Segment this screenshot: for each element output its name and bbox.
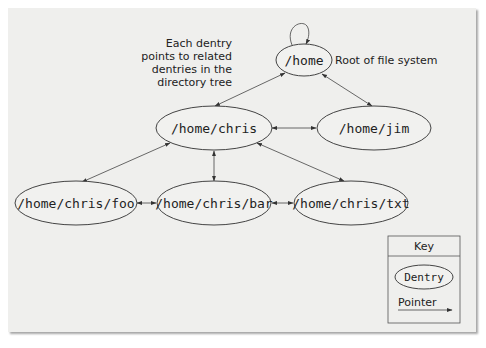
node-foo: /home/chris/foo xyxy=(15,181,137,225)
node-txt-label: /home/chris/txt xyxy=(292,196,409,211)
node-home-label: /home xyxy=(284,53,323,68)
key-legend: Key Dentry Pointer xyxy=(388,236,460,323)
node-bar-label: /home/chris/bar xyxy=(155,196,273,211)
edge-chris-foo xyxy=(82,143,170,182)
dentry-diagram: /home /home/chris /home/jim /home/chris/… xyxy=(0,0,486,348)
edge-home-jim xyxy=(322,74,372,106)
node-txt: /home/chris/txt xyxy=(292,181,409,225)
annotation-line-2: points to related xyxy=(141,50,232,63)
node-bar: /home/chris/bar xyxy=(155,181,273,225)
annotation-line-1: Each dentry xyxy=(166,37,233,50)
node-foo-label: /home/chris/foo xyxy=(17,196,134,211)
annotation-line-4: directory tree xyxy=(157,76,232,89)
node-jim: /home/jim xyxy=(317,106,431,150)
key-pointer-label: Pointer xyxy=(398,296,437,309)
node-chris: /home/chris xyxy=(156,106,272,150)
annotation-text: Each dentry points to related dentries i… xyxy=(141,37,232,89)
node-jim-label: /home/jim xyxy=(339,121,410,136)
root-label: Root of file system xyxy=(335,54,438,67)
node-chris-label: /home/chris xyxy=(171,121,257,136)
edge-chris-txt xyxy=(257,143,344,181)
key-title: Key xyxy=(414,240,434,253)
annotation-line-3: dentries in the xyxy=(152,63,232,76)
node-home: /home xyxy=(276,44,332,76)
edge-home-self xyxy=(290,23,309,45)
key-dentry-label: Dentry xyxy=(404,271,444,284)
